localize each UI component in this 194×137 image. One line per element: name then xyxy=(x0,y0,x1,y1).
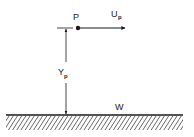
hatch-stroke xyxy=(109,116,118,130)
hatch-stroke xyxy=(13,116,22,130)
hatch-stroke xyxy=(122,116,131,130)
wall-distance-diagram: Y p P U p W xyxy=(0,0,194,137)
hatch-stroke xyxy=(113,116,122,130)
hatch-stroke xyxy=(101,116,110,130)
hatch-stroke xyxy=(4,116,13,130)
hatch-stroke xyxy=(50,116,59,130)
hatch-stroke xyxy=(38,116,47,130)
hatch-stroke xyxy=(155,116,164,130)
hatch-stroke xyxy=(63,116,72,130)
hatch-stroke xyxy=(151,116,160,130)
hatch-stroke xyxy=(134,116,143,130)
point-label: P xyxy=(73,12,79,22)
hatch-stroke xyxy=(25,116,34,130)
hatch-stroke xyxy=(21,116,30,130)
hatch-stroke xyxy=(105,116,114,130)
hatch-stroke xyxy=(84,116,93,130)
hatch-stroke xyxy=(55,116,64,130)
hatch-stroke xyxy=(76,116,85,130)
hatch-stroke xyxy=(88,116,97,130)
hatch-stroke xyxy=(59,116,68,130)
hatch-stroke xyxy=(160,116,169,130)
hatch-stroke xyxy=(80,116,89,130)
hatch-stroke xyxy=(193,116,194,130)
hatch-stroke xyxy=(92,116,101,130)
wall-hatching xyxy=(0,116,194,130)
hatch-stroke xyxy=(126,116,135,130)
hatch-stroke xyxy=(181,116,190,130)
velocity-label-subscript: p xyxy=(118,14,122,20)
hatch-stroke xyxy=(97,116,106,130)
hatch-stroke xyxy=(8,116,17,130)
point-p-marker xyxy=(76,26,80,30)
wall-label: W xyxy=(115,102,124,112)
hatch-stroke xyxy=(189,116,194,130)
hatch-stroke xyxy=(139,116,148,130)
distance-label-subscript: p xyxy=(64,73,68,79)
hatch-stroke xyxy=(130,116,139,130)
hatch-stroke xyxy=(67,116,76,130)
hatch-stroke xyxy=(176,116,185,130)
hatch-stroke xyxy=(164,116,173,130)
hatch-stroke xyxy=(71,116,80,130)
hatch-stroke xyxy=(147,116,156,130)
velocity-label: U xyxy=(111,9,118,19)
hatch-stroke xyxy=(0,116,9,130)
hatch-stroke xyxy=(46,116,55,130)
hatch-stroke xyxy=(168,116,177,130)
hatch-stroke xyxy=(185,116,194,130)
hatch-stroke xyxy=(143,116,152,130)
hatch-stroke xyxy=(118,116,127,130)
hatch-stroke xyxy=(172,116,181,130)
hatch-stroke xyxy=(29,116,38,130)
hatch-stroke xyxy=(17,116,26,130)
hatch-stroke xyxy=(42,116,51,130)
hatch-stroke xyxy=(34,116,43,130)
